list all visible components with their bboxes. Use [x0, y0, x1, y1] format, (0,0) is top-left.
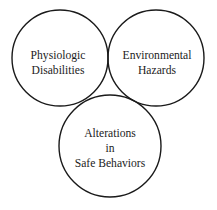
- venn-diagram-canvas: Physiologic Disabilities Environmental H…: [0, 0, 217, 210]
- label-environmental-hazards-line2: Hazards: [138, 64, 176, 77]
- label-physiologic-disabilities-line2: Disabilities: [32, 64, 85, 77]
- label-environmental-hazards-line1: Environmental: [123, 49, 192, 62]
- label-alterations-line3: Safe Behaviors: [75, 157, 146, 170]
- label-alterations-line2: in: [105, 142, 114, 155]
- label-physiologic-disabilities-line1: Physiologic: [31, 49, 86, 62]
- venn-diagram-svg: Physiologic Disabilities Environmental H…: [0, 0, 217, 210]
- label-alterations-line1: Alterations: [84, 127, 136, 140]
